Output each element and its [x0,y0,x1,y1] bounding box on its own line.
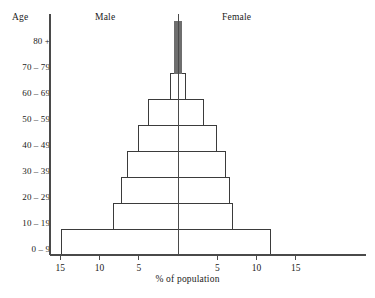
x-axis-tick-label: 10 [95,263,105,273]
x-axis-ticks: 1510551015 [56,255,301,273]
x-axis-tick-label: 15 [56,263,66,273]
axes-group [50,14,366,255]
x-axis-tick-label: 10 [252,263,262,273]
age-band-bar [128,151,226,177]
age-band-bar [148,99,204,125]
x-axis-tick-label: 5 [136,263,141,273]
pyramid-plot-area: 1510551015 [0,0,375,298]
age-band-bar [121,177,229,203]
x-axis-tick-label: 15 [291,263,301,273]
population-pyramid-chart: Age Male Female 80 + 70 – 79 60 – 69 50 … [0,0,375,298]
bars-group [62,21,271,255]
x-axis-tick-label: 5 [215,263,220,273]
age-band-bar [114,203,233,229]
x-axis-title: % of population [0,274,375,284]
age-band-bar [62,229,271,255]
